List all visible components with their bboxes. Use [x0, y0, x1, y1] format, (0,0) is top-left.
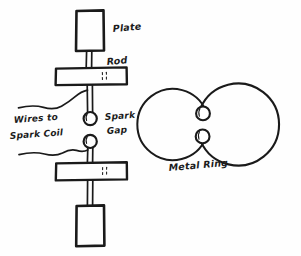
spark-gap-diagram: Plate Rod Wires to Spark Coil Spark Gap …	[0, 0, 301, 256]
label-spark-gap-line2: Gap	[106, 125, 128, 136]
figure-root: Plate Rod Wires to Spark Coil Spark Gap …	[0, 0, 301, 256]
ring-lower-sphere	[196, 130, 210, 144]
ring-upper-sphere	[196, 107, 210, 121]
label-rod: Rod	[106, 54, 128, 67]
